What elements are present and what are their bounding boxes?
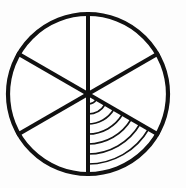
sectored-circle-figure: Circle divided into six sectors with con… xyxy=(0,0,186,188)
figure-root: Circle divided into six sectors with con… xyxy=(0,0,186,188)
